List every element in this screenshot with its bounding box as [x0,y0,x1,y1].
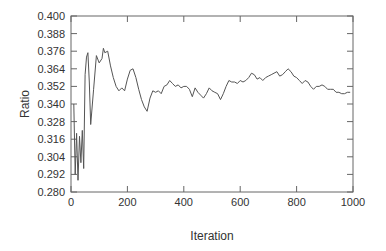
y-tick-label: 0.352 [37,80,65,92]
y-tick-label: 0.364 [37,63,65,75]
x-tick-label: 600 [231,196,249,208]
axis-ticks: 0.2800.2920.3040.3160.3280.3400.3520.364… [37,10,365,208]
y-tick-label: 0.304 [37,151,65,163]
line-chart: 0.2800.2920.3040.3160.3280.3400.3520.364… [0,0,386,251]
data-series [74,48,350,180]
x-tick-label: 200 [118,196,136,208]
y-tick-label: 0.400 [37,10,65,22]
y-tick-label: 0.292 [37,168,65,180]
y-tick-label: 0.376 [37,45,65,57]
plot-axes [71,16,353,192]
y-tick-label: 0.280 [37,186,65,198]
x-axis-label: Iteration [190,229,233,243]
y-tick-label: 0.340 [37,98,65,110]
x-tick-label: 400 [175,196,193,208]
y-tick-label: 0.328 [37,116,65,128]
plot-frame [71,16,353,192]
x-tick-label: 800 [287,196,305,208]
x-tick-label: 1000 [341,196,365,208]
y-tick-label: 0.316 [37,133,65,145]
series-line [74,48,350,180]
y-axis-label: Ratio [18,90,32,118]
x-tick-label: 0 [68,196,74,208]
y-tick-label: 0.388 [37,28,65,40]
